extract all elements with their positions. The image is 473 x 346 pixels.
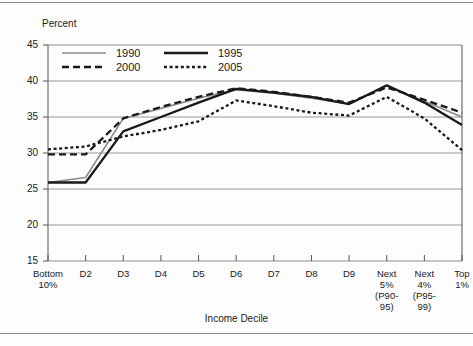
gridlines bbox=[48, 45, 462, 261]
legend-label-2005: 2005 bbox=[218, 61, 242, 73]
x-axis-title: Income Decile bbox=[0, 313, 473, 324]
chart-figure: Percent 15202530354045 Bottom 10%D2D3D4D… bbox=[0, 0, 473, 346]
series-line-1995 bbox=[48, 85, 462, 182]
legend-label-2000: 2000 bbox=[116, 61, 140, 73]
y-tick-label-25: 25 bbox=[14, 183, 38, 194]
y-tick-label-30: 30 bbox=[14, 147, 38, 158]
y-tick-label-45: 45 bbox=[14, 39, 38, 50]
series-lines bbox=[48, 85, 462, 182]
series-line-1990 bbox=[48, 86, 462, 182]
series-line-2000 bbox=[48, 87, 462, 154]
y-tick-label-20: 20 bbox=[14, 219, 38, 230]
legend-label-1995: 1995 bbox=[218, 47, 242, 59]
legend-label-1990: 1990 bbox=[116, 47, 140, 59]
series-line-2005 bbox=[48, 97, 462, 150]
y-tick-label-35: 35 bbox=[14, 111, 38, 122]
y-tick-label-40: 40 bbox=[14, 75, 38, 86]
y-tick-label-15: 15 bbox=[14, 255, 38, 266]
x-tick-label-11: Top 1% bbox=[439, 268, 473, 290]
